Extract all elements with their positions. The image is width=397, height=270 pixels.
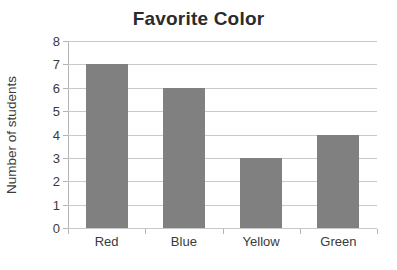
- x-tick-label-yellow: Yellow: [222, 234, 300, 249]
- y-tick-label: 5: [34, 105, 60, 118]
- y-tick-label: 8: [34, 35, 60, 48]
- y-tick-mark: [63, 41, 68, 42]
- x-tick-mark: [377, 229, 378, 234]
- x-tick-label-red: Red: [68, 234, 146, 249]
- y-tick-label: 6: [34, 82, 60, 95]
- y-tick-mark: [63, 181, 68, 182]
- y-tick-mark: [63, 88, 68, 89]
- bar-red: [86, 64, 128, 228]
- bar-chart: Favorite Color Number of students 876543…: [0, 0, 397, 270]
- y-tick-label: 1: [34, 199, 60, 212]
- y-tick-label: 4: [34, 129, 60, 142]
- x-tick-label-green: Green: [299, 234, 377, 249]
- y-tick-mark: [63, 64, 68, 65]
- y-axis-title-text: Number of students: [4, 76, 19, 194]
- y-tick-label: 0: [34, 222, 60, 235]
- y-tick-mark: [63, 158, 68, 159]
- bar-blue: [163, 88, 205, 228]
- y-tick-mark: [63, 135, 68, 136]
- bar-green: [317, 135, 359, 229]
- x-tick-label-blue: Blue: [145, 234, 223, 249]
- y-tick-mark: [63, 205, 68, 206]
- y-tick-label: 2: [34, 175, 60, 188]
- y-axis-title: Number of students: [0, 41, 22, 229]
- x-tick-mark: [68, 229, 69, 234]
- y-tick-label: 3: [34, 152, 60, 165]
- y-tick-label: 7: [34, 58, 60, 71]
- chart-title: Favorite Color: [0, 8, 397, 30]
- y-tick-mark: [63, 111, 68, 112]
- bar-yellow: [240, 158, 282, 228]
- gridline: [68, 41, 377, 42]
